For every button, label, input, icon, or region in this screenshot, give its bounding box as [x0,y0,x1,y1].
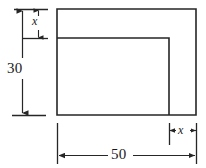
dimension-label-width: 50 [111,147,127,162]
dimension-label-inset-right: x [178,124,183,136]
figure-drawing [0,0,206,168]
geometry-figure: 30 50 x x [0,0,206,168]
dimension-label-inset-top: x [32,15,37,27]
outer-rectangle [57,9,196,115]
dimension-label-height: 30 [7,61,23,76]
inner-rectangle [57,38,169,115]
dimension-line-width-50 [59,146,195,165]
